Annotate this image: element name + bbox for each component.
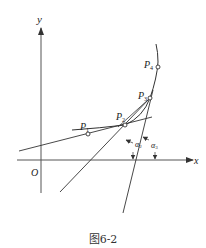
alpha2-arrow-line <box>126 140 133 143</box>
secant-line-diagram: y x O P1 P2 P3 P4 α2 α3 <box>0 0 206 248</box>
label-alpha3: α3 <box>151 141 158 150</box>
label-alpha2: α2 <box>135 140 142 149</box>
origin-label: O <box>31 167 38 178</box>
y-axis-label: y <box>36 13 42 25</box>
curve <box>72 44 158 130</box>
point-p2 <box>123 123 127 127</box>
point-p3 <box>148 96 152 100</box>
label-p1: P1 <box>79 121 89 133</box>
x-axis-label: x <box>193 155 199 166</box>
label-p2: P2 <box>115 111 125 123</box>
figure-caption: 图6-2 <box>0 230 206 246</box>
label-p4: P4 <box>143 59 153 71</box>
label-p3: P3 <box>137 90 147 102</box>
point-p4 <box>156 65 160 69</box>
alpha3-arrow-line <box>143 137 149 140</box>
